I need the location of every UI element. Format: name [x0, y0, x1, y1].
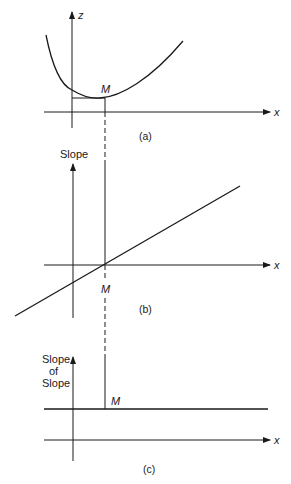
z-axis-label: z [77, 9, 84, 21]
u-shaped-curve [46, 35, 183, 98]
caption-c: (c) [143, 463, 155, 475]
point-m-label-a: M [101, 83, 111, 95]
caption-b: (b) [139, 303, 152, 315]
x-axis-label-a: x [273, 106, 280, 118]
panel-a: z x M (a) [44, 9, 280, 142]
slope-of-slope-label-line2: of [49, 365, 59, 377]
point-m-label-b: M [101, 283, 111, 295]
diagram-canvas: z x M (a) Slope x M (b) Slope of Slope M… [0, 0, 291, 484]
panel-c: Slope of Slope M x (c) [42, 353, 280, 475]
point-m-label-c: M [111, 395, 121, 407]
slope-of-slope-label-line1: Slope [42, 353, 70, 365]
slope-line [15, 186, 240, 316]
slope-of-slope-label-line3: Slope [42, 377, 70, 389]
x-axis-label-b: x [273, 259, 280, 271]
caption-a: (a) [139, 130, 152, 142]
x-axis-label-c: x [273, 434, 280, 446]
slope-axis-label: Slope [60, 148, 88, 160]
panel-b: Slope x M (b) [15, 148, 280, 318]
